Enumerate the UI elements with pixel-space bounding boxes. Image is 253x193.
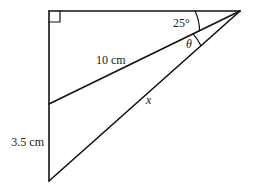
angle-label-25: 25° <box>173 16 190 30</box>
angle-arc-theta <box>193 34 201 46</box>
label-10cm: 10 cm <box>96 53 126 67</box>
angle-label-theta: θ <box>186 37 192 51</box>
geometry-diagram: 25° θ 10 cm x 3.5 cm <box>0 0 253 193</box>
label-3-5cm: 3.5 cm <box>11 135 44 149</box>
right-angle-mark <box>49 11 60 22</box>
angle-arc-25 <box>195 11 200 31</box>
label-x: x <box>145 93 152 107</box>
inner-hypotenuse <box>49 11 240 104</box>
outer-hypotenuse <box>49 11 240 181</box>
